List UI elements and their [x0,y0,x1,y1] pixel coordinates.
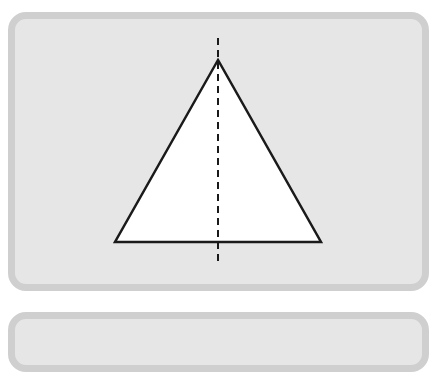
next-diagram-card [8,312,429,372]
